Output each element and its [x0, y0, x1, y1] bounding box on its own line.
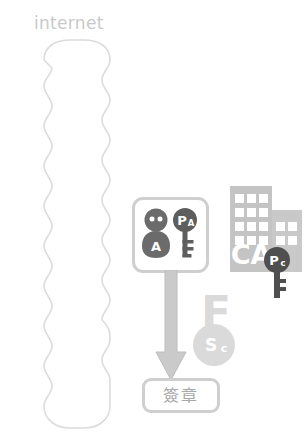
- private-key-icon: P A: [173, 208, 197, 258]
- signature-label: 簽章: [163, 388, 199, 404]
- signature-result-box: 簽章: [142, 378, 220, 413]
- internet-cloud: [26, 38, 126, 432]
- flow-arrow: [155, 270, 187, 382]
- certificate-authority: CA P c: [227, 184, 308, 299]
- person-label: A: [151, 239, 161, 254]
- private-key-label-main: P: [177, 213, 187, 228]
- person-icon: A: [142, 209, 170, 259]
- ca-public-key-icon: P c: [264, 247, 290, 298]
- signature-key-circle-sub: c: [221, 342, 228, 355]
- user-entity-box: A P A: [132, 197, 209, 273]
- ca-key-label-sub: c: [280, 258, 285, 268]
- private-key-label-sub: A: [188, 218, 195, 228]
- signature-key-circle-main: S: [205, 335, 217, 355]
- diagram-canvas: internet A P A: [0, 0, 308, 441]
- signature-key-icon: F S c: [188, 292, 244, 368]
- user-box-contents: A P A: [135, 200, 206, 270]
- internet-label: internet: [34, 13, 104, 33]
- ca-key-label-main: P: [269, 253, 279, 268]
